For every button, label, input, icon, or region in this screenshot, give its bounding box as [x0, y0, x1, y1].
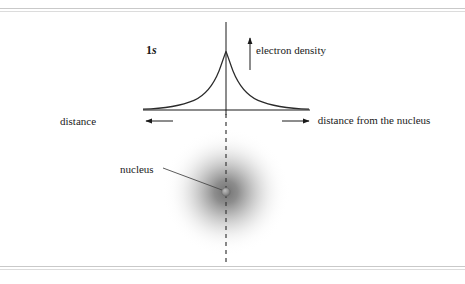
- electron-density-label: electron density: [256, 44, 326, 57]
- distance-label: distance: [60, 115, 96, 128]
- nucleus-marker: [222, 188, 230, 196]
- nucleus-label: nucleus: [120, 163, 154, 176]
- diagram-artwork: [0, 0, 465, 284]
- figure-1s-orbital: 1s electron density distance distance fr…: [0, 0, 465, 284]
- distance-from-nucleus-label: distance from the nucleus: [314, 114, 434, 127]
- orbital-label-letter: s: [152, 43, 157, 57]
- orbital-label: 1s: [146, 44, 157, 57]
